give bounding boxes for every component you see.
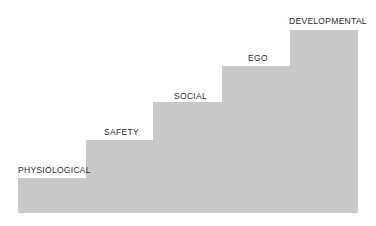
step-physiological xyxy=(18,178,87,213)
label-ego: EGO xyxy=(248,54,268,63)
needs-staircase-diagram: PHYSIOLOGICAL SAFETY SOCIAL EGO DEVELOPM… xyxy=(0,0,376,226)
step-developmental xyxy=(290,30,358,213)
label-safety: SAFETY xyxy=(104,128,139,137)
step-ego xyxy=(222,66,291,213)
label-social: SOCIAL xyxy=(174,92,207,101)
label-developmental: DEVELOPMENTAL xyxy=(289,17,367,26)
step-safety xyxy=(86,140,154,213)
label-physiological: PHYSIOLOGICAL xyxy=(18,166,91,175)
step-social xyxy=(153,102,223,213)
